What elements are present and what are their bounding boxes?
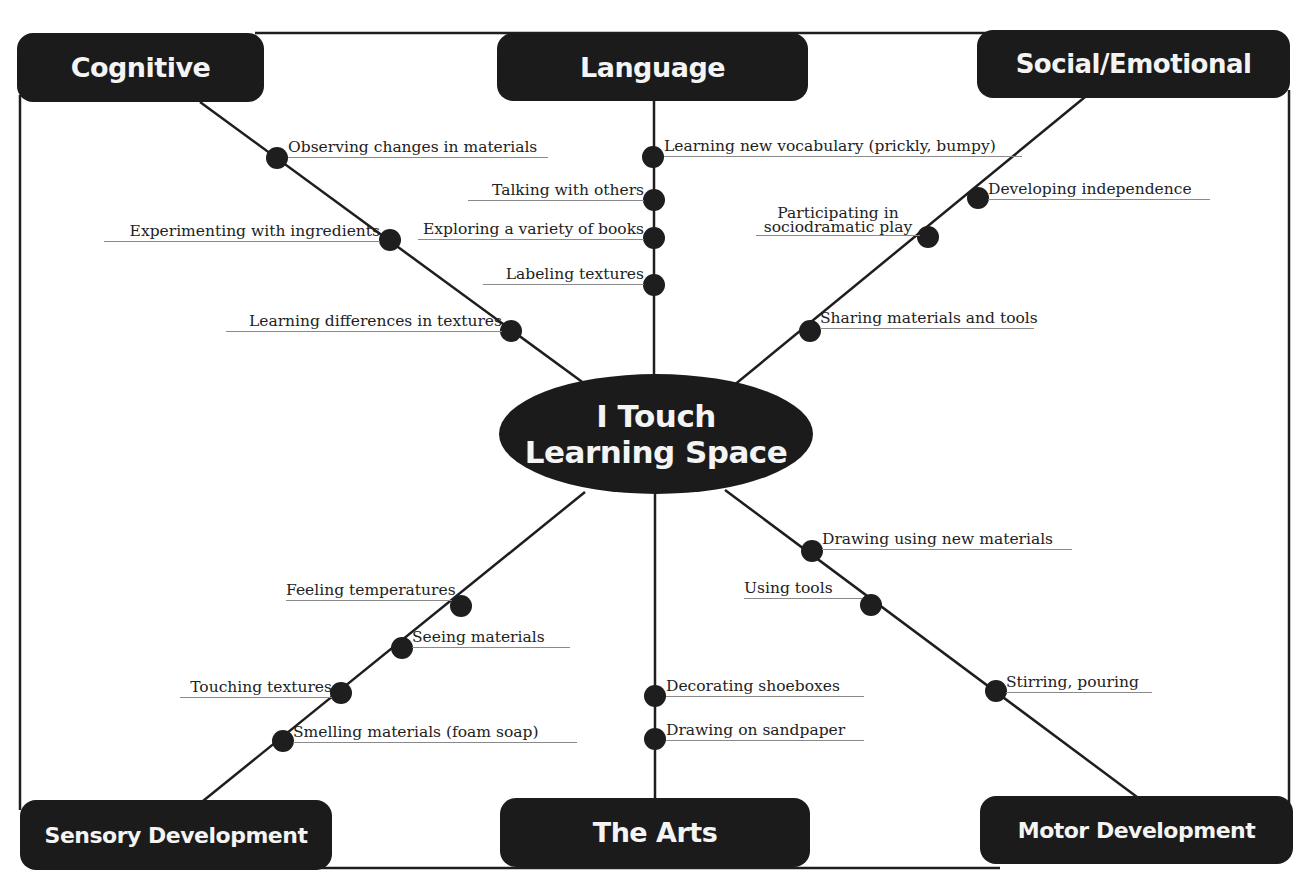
language-item: Labeling textures	[483, 265, 644, 285]
center-title-line1: I Touch	[596, 398, 716, 434]
category-cognitive: Cognitive	[17, 33, 264, 102]
category-label: The Arts	[593, 817, 718, 848]
sensory-item: Touching textures	[180, 678, 332, 698]
category-label: Social/Emotional	[1016, 49, 1252, 79]
sensory-item: Seeing materials	[412, 628, 570, 648]
category-social-emotional: Social/Emotional	[977, 30, 1290, 98]
language-item: Learning new vocabulary (prickly, bumpy)	[664, 137, 1022, 157]
arts-item: Decorating shoeboxes	[666, 677, 864, 697]
category-sensory-development: Sensory Development	[20, 800, 332, 870]
language-item: Exploring a variety of books	[418, 220, 644, 240]
category-label: Motor Development	[1018, 818, 1256, 843]
sensory-item: Feeling temperatures	[286, 581, 452, 601]
motor-item: Using tools	[744, 579, 862, 599]
category-the-arts: The Arts	[500, 798, 810, 867]
language-item: Talking with others	[468, 181, 644, 201]
center-title-line2: Learning Space	[525, 434, 788, 470]
motor-item: Stirring, pouring	[1006, 673, 1152, 693]
motor-item: Drawing using new materials	[822, 530, 1072, 550]
cognitive-item: Observing changes in materials	[288, 138, 548, 158]
center-topic: I Touch Learning Space	[499, 374, 813, 494]
concept-web-diagram: Cognitive Language Social/Emotional Sens…	[0, 0, 1305, 887]
social-emotional-item: Sharing materials and tools	[820, 309, 1034, 329]
category-label: Cognitive	[71, 52, 211, 83]
sensory-item: Smelling materials (foam soap)	[293, 723, 577, 743]
category-motor-development: Motor Development	[980, 796, 1293, 864]
category-language: Language	[497, 33, 808, 101]
cognitive-item: Learning differences in textures	[226, 312, 502, 332]
social-emotional-item: Participating in sociodramatic play	[756, 206, 920, 236]
category-label: Sensory Development	[45, 823, 308, 848]
social-emotional-item: Developing independence	[988, 180, 1210, 200]
cognitive-item: Experimenting with ingredients	[104, 222, 380, 242]
category-label: Language	[580, 52, 725, 83]
arts-item: Drawing on sandpaper	[666, 721, 864, 741]
